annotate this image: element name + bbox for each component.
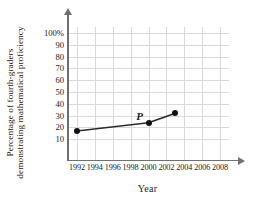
data-point-marker <box>146 120 152 126</box>
data-line <box>0 0 256 205</box>
chart-figure: demonstrating mathematical proficiency P… <box>0 0 256 205</box>
data-point-marker <box>74 128 80 134</box>
data-point-marker <box>172 110 178 116</box>
x-axis-title: Year <box>60 183 235 194</box>
point-label-p: P <box>136 110 143 122</box>
